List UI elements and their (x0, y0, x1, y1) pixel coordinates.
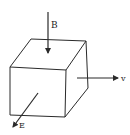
vector-b-label: B (51, 20, 58, 30)
vector-e-arrow (13, 93, 38, 127)
vector-v-label: v (120, 74, 126, 83)
vector-e-label: E (19, 121, 25, 130)
cube-bottom-right-edge (65, 88, 88, 117)
vector-v: v (77, 74, 126, 83)
diagram-svg: B v E (0, 0, 130, 135)
cube-top-left-edge (10, 39, 31, 67)
cube-back-right-edge (86, 41, 88, 88)
vector-b: B (48, 12, 58, 53)
cube (10, 39, 88, 117)
vector-e: E (13, 93, 38, 130)
cube-top-back-edge (31, 39, 86, 41)
cube-top-right-edge (66, 41, 86, 70)
cube-front-face (10, 67, 66, 117)
cube-diagram: B v E (0, 0, 130, 135)
